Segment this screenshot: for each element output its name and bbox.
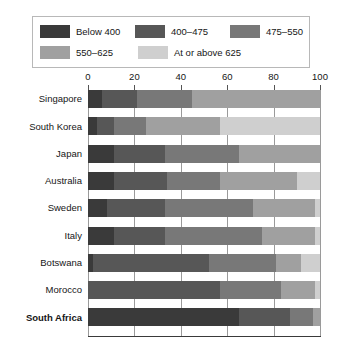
bar-track bbox=[88, 145, 320, 163]
legend-entry-400-475: 400–475 bbox=[135, 23, 230, 40]
category-label-sweden: Sweden bbox=[0, 203, 82, 213]
legend-row: Below 400 400–475 475–550 bbox=[40, 23, 303, 40]
bar-segment bbox=[290, 308, 313, 326]
legend-label-475-550: 475–550 bbox=[266, 27, 303, 37]
legend-label-550-625: 550–625 bbox=[76, 48, 113, 58]
category-label-south-africa: South Africa bbox=[0, 313, 82, 323]
bar-segment bbox=[281, 281, 316, 299]
bar-segment bbox=[165, 145, 239, 163]
x-tick-label-80: 80 bbox=[268, 72, 279, 82]
bar-segment bbox=[88, 145, 114, 163]
legend-row: 550–625 At or above 625 bbox=[40, 44, 303, 61]
legend-entry-at-or-above-625: At or above 625 bbox=[138, 44, 241, 61]
bar-row: Japan bbox=[0, 145, 340, 163]
x-tick-label-20: 20 bbox=[129, 72, 140, 82]
legend-label-below-400: Below 400 bbox=[76, 27, 120, 37]
legend-entry-below-400: Below 400 bbox=[40, 23, 135, 40]
category-label-botswana: Botswana bbox=[0, 258, 82, 268]
bar-segment bbox=[114, 145, 165, 163]
bar-segment bbox=[88, 90, 102, 108]
bar-row: Morocco bbox=[0, 281, 340, 299]
category-label-japan: Japan bbox=[0, 149, 82, 159]
bar-track bbox=[88, 308, 320, 326]
category-label-morocco: Morocco bbox=[0, 285, 82, 295]
category-label-italy: Italy bbox=[0, 231, 82, 241]
bar-segment bbox=[146, 117, 220, 135]
bar-track bbox=[88, 90, 320, 108]
bar-row: Sweden bbox=[0, 199, 340, 217]
bar-track bbox=[88, 172, 320, 190]
bar-segment bbox=[276, 254, 302, 272]
bar-segment bbox=[88, 117, 97, 135]
legend-label-400-475: 400–475 bbox=[171, 27, 208, 37]
bar-segment bbox=[297, 172, 320, 190]
stacked-bar-chart: 020406080100 SingaporeSouth KoreaJapanAu… bbox=[0, 72, 340, 357]
legend-entry-475-550: 475–550 bbox=[230, 23, 303, 40]
bar-row: Australia bbox=[0, 172, 340, 190]
bar-track bbox=[88, 117, 320, 135]
bar-segment bbox=[93, 254, 209, 272]
bar-segment bbox=[114, 172, 167, 190]
category-label-south-korea: South Korea bbox=[0, 122, 82, 132]
category-label-singapore: Singapore bbox=[0, 94, 82, 104]
x-tick-label-40: 40 bbox=[176, 72, 187, 82]
x-axis-line bbox=[88, 336, 321, 337]
bar-segment bbox=[220, 172, 297, 190]
bar-segment bbox=[192, 90, 320, 108]
bar-segment bbox=[88, 227, 114, 245]
chart-legend: Below 400 400–475 475–550 550–625 At or … bbox=[32, 16, 310, 68]
legend-entry-550-625: 550–625 bbox=[40, 44, 138, 61]
bar-row: Italy bbox=[0, 227, 340, 245]
bar-segment bbox=[88, 199, 107, 217]
legend-swatch-at-or-above-625 bbox=[138, 46, 168, 59]
bar-segment bbox=[209, 254, 276, 272]
bar-segment bbox=[220, 117, 320, 135]
bar-segment bbox=[114, 227, 165, 245]
bar-segment bbox=[107, 199, 165, 217]
bar-segment bbox=[239, 308, 290, 326]
bar-segment bbox=[88, 172, 114, 190]
bar-segment bbox=[165, 199, 253, 217]
bar-segment bbox=[315, 199, 320, 217]
bar-segment bbox=[313, 308, 320, 326]
bar-row: South Africa bbox=[0, 308, 340, 326]
bar-track bbox=[88, 199, 320, 217]
x-tick-label-100: 100 bbox=[312, 72, 328, 82]
bar-segment bbox=[315, 227, 320, 245]
bar-segment bbox=[137, 90, 193, 108]
bar-segment bbox=[97, 117, 113, 135]
bar-track bbox=[88, 227, 320, 245]
category-label-australia: Australia bbox=[0, 176, 82, 186]
bar-segment bbox=[88, 281, 220, 299]
bar-rows: SingaporeSouth KoreaJapanAustraliaSweden… bbox=[0, 90, 340, 336]
bar-segment bbox=[220, 281, 280, 299]
bar-segment bbox=[165, 227, 262, 245]
bar-segment bbox=[301, 254, 320, 272]
bar-row: South Korea bbox=[0, 117, 340, 135]
legend-swatch-below-400 bbox=[40, 25, 70, 38]
bar-segment bbox=[88, 308, 239, 326]
bar-segment bbox=[239, 145, 320, 163]
bar-row: Botswana bbox=[0, 254, 340, 272]
x-tick-label-0: 0 bbox=[85, 72, 90, 82]
bar-segment bbox=[315, 281, 320, 299]
x-tick-label-60: 60 bbox=[222, 72, 233, 82]
bar-segment bbox=[253, 199, 316, 217]
legend-label-at-or-above-625: At or above 625 bbox=[174, 48, 241, 58]
bar-row: Singapore bbox=[0, 90, 340, 108]
bar-segment bbox=[114, 117, 146, 135]
bar-segment bbox=[102, 90, 137, 108]
bar-segment bbox=[167, 172, 220, 190]
bar-track bbox=[88, 254, 320, 272]
bar-track bbox=[88, 281, 320, 299]
legend-swatch-550-625 bbox=[40, 46, 70, 59]
bar-segment bbox=[262, 227, 315, 245]
legend-swatch-475-550 bbox=[230, 25, 260, 38]
x-axis-tick-labels: 020406080100 bbox=[88, 72, 320, 86]
legend-swatch-400-475 bbox=[135, 25, 165, 38]
